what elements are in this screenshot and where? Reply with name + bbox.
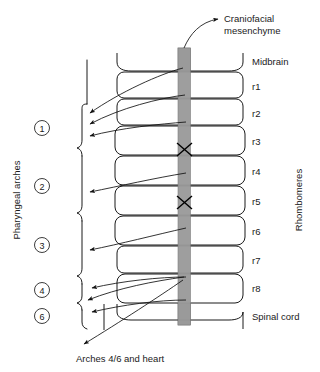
arch-brace-1	[77, 104, 87, 156]
arch-number-3: 3	[35, 238, 50, 253]
rhombomere-label-r4: r4	[252, 166, 260, 177]
midbrain-label: Midbrain	[252, 56, 288, 67]
rhombomere-label-r3: r3	[252, 136, 260, 147]
craniofacial-label-line1: Craniofacial	[224, 13, 274, 24]
diagram-canvas: 1 2 3 4 6 Midbrain r1 r2 r3 r4 r5 r6 r7 …	[0, 0, 320, 372]
rhombomere-label-r5: r5	[252, 196, 260, 207]
arch-brace-2	[77, 156, 82, 221]
arch-brace-4	[77, 284, 82, 310]
arch-number-6-label: 6	[39, 312, 44, 322]
pharyngeal-arches-axis-label: Pharyngeal arches	[11, 160, 22, 239]
arch-number-4-label: 4	[39, 286, 44, 296]
arch-number-2-label: 2	[39, 182, 44, 192]
arch-number-3-label: 3	[39, 241, 44, 251]
rhombomere-label-r6: r6	[252, 226, 260, 237]
rhombomeres-axis-label: Rhombomeres	[293, 169, 304, 232]
rhombomere-label-r1: r1	[252, 81, 260, 92]
arch-number-1: 1	[35, 121, 50, 136]
bottom-caption: Arches 4/6 and heart	[76, 353, 165, 364]
rhombomere-label-r2: r2	[252, 108, 260, 119]
rhombomere-label-r8: r8	[252, 283, 260, 294]
arch-number-1-label: 1	[39, 124, 44, 134]
craniofacial-mesenchyme-bar-overlay	[178, 48, 191, 325]
arch-number-2: 2	[35, 179, 50, 194]
spinal-cord-label: Spinal cord	[252, 311, 300, 322]
neural-crest-migration-figure: 1 2 3 4 6 Midbrain r1 r2 r3 r4 r5 r6 r7 …	[0, 0, 320, 372]
arch-number-4: 4	[35, 283, 50, 298]
arch-brace-3	[77, 221, 82, 284]
arch-brace-6	[82, 310, 87, 329]
craniofacial-mesenchyme-leader	[184, 19, 218, 48]
craniofacial-label-line2: mesenchyme	[224, 25, 281, 36]
rhombomere-label-r7: r7	[252, 255, 260, 266]
arch-number-6: 6	[35, 309, 50, 324]
